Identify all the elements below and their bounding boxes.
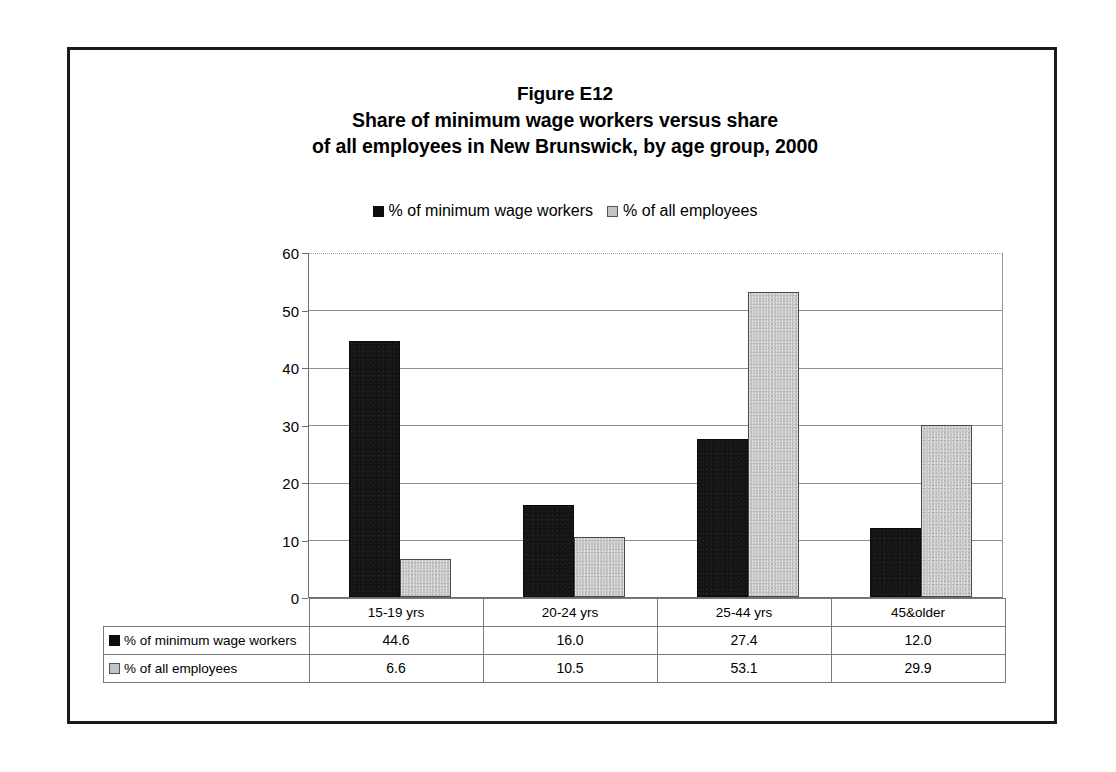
bar-20-24-yrs-series-0[interactable] [523, 505, 574, 597]
table-cell-s1-c3: 29.9 [831, 654, 1005, 682]
y-tick-mark-50 [302, 311, 308, 312]
table-corner-cell [104, 599, 310, 627]
table-body: % of minimum wage workers44.616.027.412.… [104, 626, 1006, 682]
chart-legend: % of minimum wage workers % of all emplo… [70, 202, 1060, 220]
y-tick-mark-30 [302, 426, 308, 427]
gridline-30 [309, 425, 1002, 426]
table-header-row: 15-19 yrs20-24 yrs25-44 yrs45&older [104, 599, 1006, 627]
y-tick-mark-60 [302, 253, 308, 254]
table-cell-s1-c1: 10.5 [483, 654, 657, 682]
figure-number: Figure E12 [70, 81, 1060, 107]
table-cell-s1-c2: 53.1 [657, 654, 831, 682]
y-tick-label-10: 10 [282, 532, 299, 549]
legend-label-minimum-wage-workers: % of minimum wage workers [389, 202, 594, 220]
table-cell-s0-c1: 16.0 [483, 626, 657, 654]
figure-title-block: Figure E12 Share of minimum wage workers… [70, 81, 1060, 159]
y-tick-mark-40 [302, 368, 308, 369]
y-tick-label-40: 40 [282, 360, 299, 377]
plot-area [308, 253, 1003, 598]
table-series-label-0: % of minimum wage workers [104, 626, 310, 654]
legend-label-all-employees: % of all employees [623, 202, 757, 220]
figure-title-line-2: of all employees in New Brunswick, by ag… [70, 133, 1060, 159]
legend-item-all-employees[interactable]: % of all employees [607, 202, 757, 220]
bar-15-19-yrs-series-0[interactable] [349, 341, 400, 597]
table-cell-s0-c3: 12.0 [831, 626, 1005, 654]
legend-swatch-icon-all-employees [607, 206, 618, 217]
bar-15-19-yrs-series-1[interactable] [400, 559, 451, 597]
bar-20-24-yrs-series-1[interactable] [574, 537, 625, 597]
legend-item-minimum-wage-workers[interactable]: % of minimum wage workers [373, 202, 594, 220]
bar-25-44-yrs-series-1[interactable] [748, 292, 799, 597]
gridline-40 [309, 368, 1002, 369]
bar-25-44-yrs-series-0[interactable] [697, 439, 748, 597]
y-tick-mark-20 [302, 483, 308, 484]
figure-title-line-1: Share of minimum wage workers versus sha… [70, 107, 1060, 133]
table-category-header-3: 45&older [831, 599, 1005, 627]
table-cell-s0-c0: 44.6 [309, 626, 483, 654]
table-swatch-icon-series-0 [109, 635, 120, 646]
category-separator [483, 253, 484, 597]
data-table: 15-19 yrs20-24 yrs25-44 yrs45&older % of… [103, 598, 1006, 683]
table-series-name-text-1: % of all employees [124, 661, 237, 676]
category-separator [830, 253, 831, 597]
table-series-name-text-0: % of minimum wage workers [124, 633, 297, 648]
table-category-header-0: 15-19 yrs [309, 599, 483, 627]
table-category-header-2: 25-44 yrs [657, 599, 831, 627]
legend-swatch-icon-minimum-wage-workers [373, 206, 384, 217]
table-cell-s1-c0: 6.6 [309, 654, 483, 682]
table-row: % of all employees6.610.553.129.9 [104, 654, 1006, 682]
y-tick-label-20: 20 [282, 475, 299, 492]
gridline-20 [309, 483, 1002, 484]
gridline-50 [309, 310, 1002, 311]
y-tick-label-60: 60 [282, 245, 299, 262]
table-cell-s0-c2: 27.4 [657, 626, 831, 654]
y-tick-label-50: 50 [282, 302, 299, 319]
table-swatch-icon-series-1 [109, 663, 120, 674]
y-tick-label-30: 30 [282, 417, 299, 434]
bar-45-older-series-1[interactable] [921, 425, 972, 597]
plot-wrap: 6050403020100 [308, 253, 1003, 598]
table-category-header-1: 20-24 yrs [483, 599, 657, 627]
figure-frame: Figure E12 Share of minimum wage workers… [67, 47, 1057, 724]
table-series-label-1: % of all employees [104, 654, 310, 682]
table-row: % of minimum wage workers44.616.027.412.… [104, 626, 1006, 654]
bar-45-older-series-0[interactable] [870, 528, 921, 597]
gridline-60 [309, 253, 1002, 254]
category-separator [657, 253, 658, 597]
y-tick-mark-10 [302, 541, 308, 542]
